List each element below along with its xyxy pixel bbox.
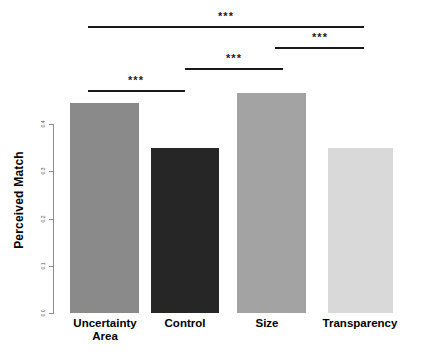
bar-control[interactable]: [151, 148, 219, 313]
x-category-label-transparency: Transparency: [300, 317, 420, 330]
x-category-label-line2: Area: [55, 330, 155, 343]
significance-stars-size-transparency: ***: [290, 32, 350, 42]
significance-stars-uncertainty-control: ***: [106, 75, 166, 85]
bar-transparency[interactable]: [328, 148, 393, 313]
significance-line-uncertainty-transparency: [88, 26, 364, 28]
bar-chart-figure: Perceived Match 0.4 0.3 0.2 0.1 0.0 Unce…: [0, 0, 424, 364]
bar-uncertainty-area[interactable]: [70, 103, 139, 313]
significance-stars-control-size: ***: [204, 53, 264, 63]
x-category-label-control: Control: [136, 317, 234, 330]
significance-stars-uncertainty-transparency: ***: [196, 11, 256, 21]
x-category-label-size: Size: [222, 317, 312, 330]
x-category-label-line1: Size: [222, 317, 312, 330]
x-category-label-line1: Control: [136, 317, 234, 330]
significance-line-uncertainty-control: [88, 90, 185, 92]
significance-line-size-transparency: [275, 47, 364, 49]
significance-line-control-size: [185, 68, 283, 70]
x-category-label-line1: Transparency: [300, 317, 420, 330]
bar-size[interactable]: [237, 93, 306, 313]
